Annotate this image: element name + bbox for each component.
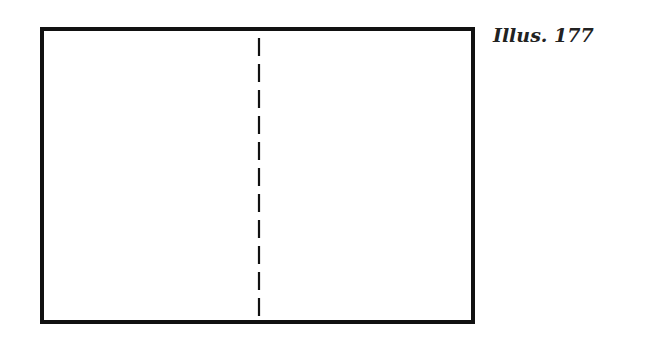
illustration-caption: Illus. 177	[493, 24, 594, 46]
fold-line	[256, 38, 262, 318]
